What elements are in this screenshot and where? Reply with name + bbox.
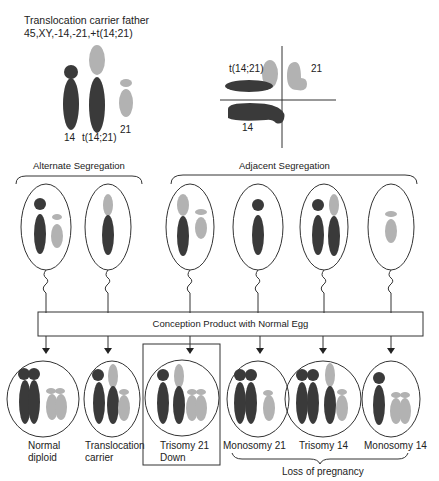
sperm-4 <box>233 184 283 313</box>
label-chr14: 14 <box>64 132 75 144</box>
sperm-1 <box>21 184 71 313</box>
zygote-monosomy-14 <box>362 361 420 437</box>
zygote-monosomy-21 <box>227 361 289 437</box>
adjacent-bracket <box>171 175 417 184</box>
outcome-label-2: Translocation carrier <box>85 440 145 464</box>
alternate-segregation-label: Alternate Segregation <box>33 160 125 172</box>
outcome-label-4: Monosomy 21 <box>223 440 286 452</box>
father-chromosome-21 <box>119 79 133 117</box>
adjacent-segregation-label: Adjacent Segregation <box>239 160 330 172</box>
zygote-translocation-carrier <box>84 361 140 437</box>
father-chromosome-t1421 <box>89 45 105 133</box>
cross-label-21: 21 <box>311 63 322 75</box>
outcome-1-line2: diploid <box>28 452 60 464</box>
outcome-3-line1: Trisomy 21 <box>160 440 209 452</box>
sperm-3 <box>166 184 214 313</box>
header-karyotype: 45,XY,-14,-21,+t(14;21) <box>24 27 133 39</box>
zygote-trisomy-21 <box>145 360 219 436</box>
outcome-label-5: Trisomy 14 <box>299 440 348 452</box>
conception-box-label: Conception Product with Normal Egg <box>38 318 423 330</box>
header-title: Translocation carrier father <box>24 14 149 26</box>
cross-label-14: 14 <box>242 122 253 134</box>
label-chr21: 21 <box>120 124 131 136</box>
diagram-canvas <box>0 0 439 481</box>
alternate-bracket <box>16 176 142 184</box>
sperm-2 <box>85 184 131 313</box>
outcome-label-1: Normal diploid <box>28 440 60 464</box>
sperm-5 <box>300 184 348 313</box>
sperm-6 <box>368 184 414 313</box>
father-chromosome-14 <box>63 65 79 130</box>
outcome-1-line1: Normal <box>28 440 60 452</box>
label-t1421: t(14;21) <box>82 132 116 144</box>
loss-bracket <box>232 453 408 464</box>
cross-label-t1421: t(14;21) <box>229 63 263 75</box>
arrows <box>42 336 395 354</box>
outcome-label-3: Trisomy 21 Down <box>160 440 209 464</box>
outcome-2-line1: Translocation <box>85 440 145 452</box>
zygote-trisomy-14 <box>285 361 361 437</box>
outcome-label-6: Monosomy 14 <box>364 440 427 452</box>
zygote-normal-diploid <box>7 361 79 437</box>
outcome-2-line2: carrier <box>85 452 145 464</box>
pairing-cross <box>220 46 336 148</box>
loss-of-pregnancy-label: Loss of pregnancy <box>282 466 364 478</box>
outcome-3-line2: Down <box>160 452 209 464</box>
